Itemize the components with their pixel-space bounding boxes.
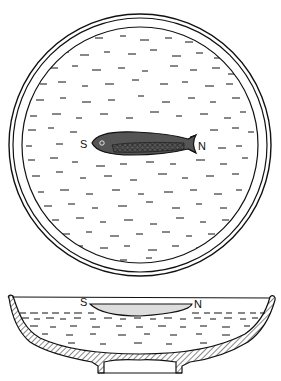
section-north-label: N [194, 298, 202, 310]
fish-compass [92, 132, 196, 155]
section-view: S N [8, 295, 275, 373]
section-water-dashes [20, 313, 265, 344]
section-fish [90, 304, 192, 316]
section-south-label: S [80, 296, 87, 308]
plan-view: S N [9, 14, 271, 276]
plan-north-label: N [198, 140, 206, 152]
plan-south-label: S [80, 138, 87, 150]
compass-bowl-illustration: S N S N [0, 0, 281, 381]
bowl-rim-line [12, 297, 270, 298]
